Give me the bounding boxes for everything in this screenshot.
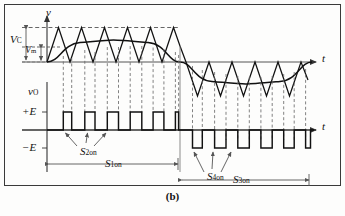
vc-label-sub: C (17, 36, 22, 45)
s1on-label: S1on (105, 157, 122, 169)
output-pulses-negative (185, 130, 314, 148)
dashed-connectors-first-half (63, 46, 178, 113)
vo-label-sub: O (33, 88, 38, 97)
vm-label-sub: m (31, 47, 36, 54)
vc-label-main: V (10, 33, 17, 45)
s4on-pointer-arrows (194, 152, 231, 172)
s4on-label: S4on (207, 170, 224, 182)
carrier-triangle-first-half (47, 28, 180, 63)
bottom-axis-x-label: t (322, 120, 325, 132)
top-axis-x-label: t (322, 52, 325, 64)
pwm-waveform-figure: v t VC Vm vO +E −E t S2on S1on S4on S3on… (0, 0, 345, 216)
bottom-axis-y-label: vO (28, 85, 38, 97)
s1on-label-sub: 1on (111, 160, 122, 169)
carrier-triangle-second-half (180, 46, 308, 96)
waveform-canvas (0, 0, 345, 216)
s3on-label-sub: 3on (239, 176, 250, 185)
vm-label: Vm (25, 44, 36, 55)
dashed-connectors-second-half (193, 66, 306, 140)
vc-label: VC (10, 33, 22, 45)
top-axis-y-label: v (46, 6, 51, 18)
plus-e-label: +E (22, 105, 36, 117)
s2on-label: S2on (80, 145, 97, 157)
figure-caption: (b) (0, 190, 345, 202)
s3on-label: S3on (233, 173, 250, 185)
s2on-label-sub: 2on (86, 148, 97, 157)
minus-e-label: −E (22, 141, 36, 153)
output-pulses-positive (47, 112, 185, 130)
s4on-label-sub: 4on (213, 173, 224, 182)
